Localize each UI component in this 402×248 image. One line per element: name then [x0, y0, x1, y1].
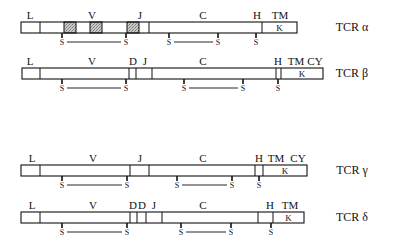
shaded-segment	[90, 22, 102, 33]
chain-row-3: KLVDDJCHTMSSSSSTCR δ	[21, 199, 368, 237]
domain-label: J	[138, 152, 143, 164]
chain-row-1: KLVDJCHTMCYSSSSSTCR β	[22, 55, 368, 93]
domain-label: V	[89, 152, 97, 164]
cysteine-s-label: S	[269, 228, 273, 237]
domain-label: TM	[282, 199, 299, 211]
domain-label: L	[29, 152, 36, 164]
cysteine-s-label: S	[125, 228, 129, 237]
cysteine-s-label: S	[179, 228, 183, 237]
cysteine-s-label: S	[60, 38, 64, 47]
chain-bar	[21, 165, 307, 176]
chain-bar	[21, 22, 297, 33]
cysteine-s-label: S	[276, 84, 280, 93]
chain-row-2: KLVJCHTMCYSSSSSTCR γ	[21, 152, 369, 190]
cysteine-s-label: S	[241, 84, 245, 93]
cysteine-s-label: S	[216, 38, 220, 47]
chain-name: TCR δ	[336, 210, 368, 224]
chain-name: TCR γ	[336, 163, 368, 177]
cysteine-s-label: S	[125, 181, 129, 190]
domain-label: TM	[288, 55, 305, 67]
cysteine-s-label: S	[254, 38, 258, 47]
shaded-segment	[127, 22, 139, 33]
domain-label: CY	[290, 152, 305, 164]
domain-label: J	[138, 9, 143, 21]
cysteine-s-label: S	[124, 38, 128, 47]
cysteine-s-label: S	[124, 84, 128, 93]
domain-label: J	[143, 55, 148, 67]
domain-label: C	[199, 199, 206, 211]
cysteine-s-label: S	[229, 228, 233, 237]
domain-label: C	[199, 55, 206, 67]
cysteine-s-label: S	[182, 84, 186, 93]
chain-name: TCR β	[336, 66, 368, 80]
domain-label: D	[129, 55, 137, 67]
shaded-segment	[64, 22, 76, 33]
cysteine-s-label: S	[60, 181, 64, 190]
domain-label: C	[199, 9, 206, 21]
domain-label: TM	[268, 152, 285, 164]
tcr-domain-diagram: KLVJCHTMSSSSSTCR αKLVDJCHTMCYSSSSSTCR βK…	[0, 0, 402, 248]
domain-label: V	[89, 199, 97, 211]
domain-label: L	[29, 199, 36, 211]
domain-label: V	[88, 9, 96, 21]
domain-label: H	[255, 152, 263, 164]
domain-label: V	[88, 55, 96, 67]
domain-label: CY	[307, 55, 322, 67]
chain-bar	[22, 68, 323, 79]
domain-label: D	[138, 199, 146, 211]
domain-label: L	[27, 9, 34, 21]
domain-label: J	[152, 199, 157, 211]
cysteine-s-label: S	[60, 84, 64, 93]
domain-label: H	[274, 55, 282, 67]
k-label: K	[285, 213, 292, 223]
chain-row-0: KLVJCHTMSSSSSTCR α	[21, 9, 369, 47]
cysteine-s-label: S	[257, 181, 261, 190]
k-label: K	[299, 69, 306, 79]
domain-label: H	[253, 9, 261, 21]
domain-label: H	[266, 199, 274, 211]
chain-name: TCR α	[336, 20, 369, 34]
domain-label: L	[27, 55, 34, 67]
k-label: K	[282, 166, 289, 176]
domain-label: C	[199, 152, 206, 164]
cysteine-s-label: S	[230, 181, 234, 190]
domain-label: TM	[272, 9, 289, 21]
cysteine-s-label: S	[175, 181, 179, 190]
k-label: K	[276, 23, 283, 33]
cysteine-s-label: S	[60, 228, 64, 237]
cysteine-s-label: S	[167, 38, 171, 47]
domain-label: D	[129, 199, 137, 211]
